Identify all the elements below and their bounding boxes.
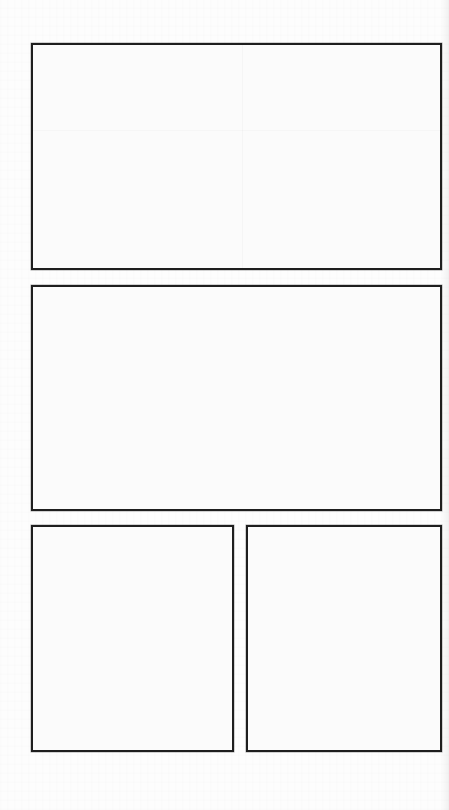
panel-bottom-right: Panel 4 [246, 525, 442, 752]
page-sheet: Panel 1 Panel 2 Panel 3 Panel 4 [0, 0, 449, 810]
faint-guide-horizontal [33, 130, 440, 131]
panel-bottom-left: Panel 3 [31, 525, 234, 752]
panel-top: Panel 1 [31, 43, 442, 270]
panel-label: Panel 4 [248, 527, 249, 528]
panel-label: Panel 2 [33, 287, 34, 288]
panel-content [33, 527, 34, 528]
panel-label: Panel 1 [33, 45, 34, 46]
panel-content [33, 45, 34, 46]
faint-guide-vertical [242, 45, 243, 268]
panel-label: Panel 3 [33, 527, 34, 528]
panel-middle: Panel 2 [31, 285, 442, 511]
page-edge-shadow [441, 0, 449, 810]
panel-content [248, 527, 249, 528]
panel-content [33, 287, 34, 288]
